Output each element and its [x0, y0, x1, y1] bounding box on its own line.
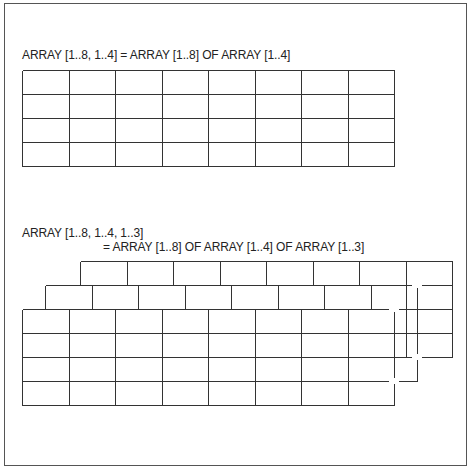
occlusion-mask — [412, 354, 422, 360]
array-diagram-canvas — [0, 0, 472, 473]
occlusion-mask — [389, 378, 399, 384]
two-dimensional-array-grid — [23, 71, 395, 167]
occlusion-mask — [389, 306, 399, 312]
occlusion-mask — [412, 282, 422, 288]
3d-array-front-layer — [23, 306, 423, 406]
